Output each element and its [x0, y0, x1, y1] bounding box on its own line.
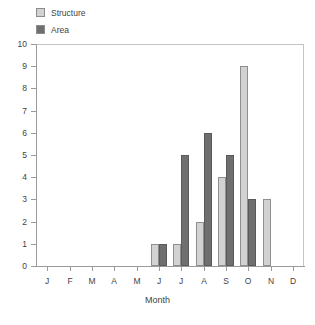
- legend-swatch-area-icon: [36, 25, 45, 34]
- bar-structure-N-10: [263, 199, 271, 266]
- y-axis-label: 2: [0, 218, 27, 226]
- x-axis-tick: [271, 267, 272, 271]
- legend-label-structure: Structure: [51, 8, 86, 18]
- y-axis-label: 5: [0, 151, 27, 159]
- x-axis-tick: [204, 267, 205, 271]
- x-axis-label: M: [126, 276, 148, 286]
- x-axis-tick: [181, 267, 182, 271]
- y-axis-label: 1: [0, 240, 27, 248]
- y-axis-label: 3: [0, 195, 27, 203]
- y-axis-label: 7: [0, 107, 27, 115]
- x-axis-tick: [114, 267, 115, 271]
- bar-area-J-5: [159, 244, 167, 266]
- y-axis-label: 6: [0, 129, 27, 137]
- bar-structure-J-6: [173, 244, 181, 266]
- x-axis-tick: [293, 267, 294, 271]
- x-axis-tick: [159, 267, 160, 271]
- y-axis-label: 10: [0, 40, 27, 48]
- x-axis-tick: [70, 267, 71, 271]
- x-axis-title: Month: [0, 295, 315, 305]
- bar-area-J-6: [181, 155, 189, 266]
- x-axis-label: J: [148, 276, 170, 286]
- chart-legend: Structure Area: [36, 4, 186, 38]
- x-axis-tick: [226, 267, 227, 271]
- bar-area-S-8: [226, 155, 234, 266]
- bar-area-O-9: [248, 199, 256, 266]
- legend-item-area: Area: [36, 21, 186, 38]
- y-axis-tick: [31, 244, 36, 245]
- x-axis-label: D: [282, 276, 304, 286]
- x-axis-label: S: [215, 276, 237, 286]
- y-axis-label: 9: [0, 62, 27, 70]
- x-axis-tick: [248, 267, 249, 271]
- bar-structure-J-5: [151, 244, 159, 266]
- y-axis-label: 4: [0, 173, 27, 181]
- x-axis-tick: [137, 267, 138, 271]
- x-axis-tick: [47, 267, 48, 271]
- x-axis-label: F: [59, 276, 81, 286]
- y-axis-label: 0: [0, 262, 27, 270]
- y-axis-label: 8: [0, 84, 27, 92]
- legend-label-area: Area: [51, 25, 69, 35]
- x-axis-label: N: [260, 276, 282, 286]
- y-axis-line: [36, 44, 37, 267]
- y-axis-tick: [31, 266, 36, 267]
- legend-item-structure: Structure: [36, 4, 186, 21]
- x-axis-label: J: [36, 276, 58, 286]
- y-axis-tick: [31, 66, 36, 67]
- x-axis-label: O: [237, 276, 259, 286]
- bar-structure-S-8: [218, 177, 226, 266]
- y-axis-tick: [31, 44, 36, 45]
- y-axis-tick: [31, 111, 36, 112]
- y-axis-tick: [31, 88, 36, 89]
- x-axis-label: M: [81, 276, 103, 286]
- y-axis-tick: [31, 155, 36, 156]
- bar-chart: Structure Area 012345678910 JFMAMJJASOND…: [0, 0, 315, 325]
- legend-swatch-structure-icon: [36, 8, 45, 17]
- y-axis-tick: [31, 222, 36, 223]
- x-axis-tick: [92, 267, 93, 271]
- x-axis-line: [36, 266, 305, 267]
- bar-structure-A-7: [196, 222, 204, 266]
- y-axis-tick: [31, 133, 36, 134]
- x-axis-label: A: [193, 276, 215, 286]
- y-axis-tick: [31, 199, 36, 200]
- y-axis-tick: [31, 177, 36, 178]
- x-axis-label: J: [170, 276, 192, 286]
- bar-area-A-7: [204, 133, 212, 266]
- x-axis-label: A: [103, 276, 125, 286]
- bar-structure-O-9: [240, 66, 248, 266]
